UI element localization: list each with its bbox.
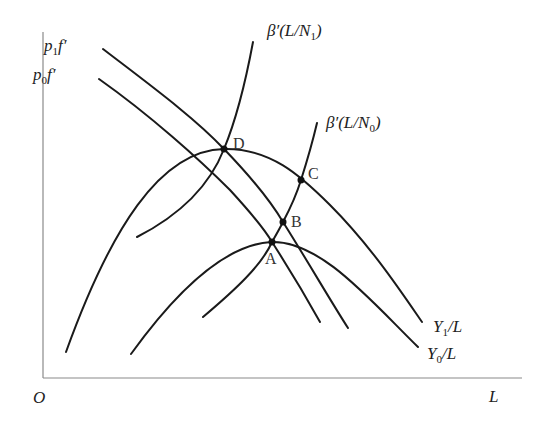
label-p1-base: p [44, 36, 53, 55]
label-beta-n0-tail: ) [375, 113, 381, 132]
point-label-d: D [233, 136, 245, 152]
label-beta-prime-n0: β′(L/N0) [326, 114, 381, 134]
label-beta-n1-head: β′(L/N [267, 21, 310, 40]
x-axis-label: L [489, 388, 498, 405]
point-d [221, 146, 228, 153]
curve-p0-f-prime [99, 79, 320, 322]
label-p1-f-prime: p1f′ [44, 37, 66, 57]
label-y0-over-l: Y0/L [427, 345, 456, 365]
label-p0-base: p [33, 65, 42, 84]
point-a [269, 239, 276, 246]
label-y0-tail: /L [442, 344, 456, 363]
label-p1-tail: f′ [58, 36, 66, 55]
origin-label: O [33, 389, 45, 406]
point-label-b: B [291, 214, 302, 230]
label-beta-n1-tail: ) [316, 21, 322, 40]
label-y1-over-l: Y1/L [433, 318, 462, 338]
point-c [298, 177, 305, 184]
point-label-a: A [265, 251, 277, 267]
economics-diagram [0, 0, 550, 430]
label-p0-tail: f′ [47, 65, 55, 84]
point-b [280, 219, 287, 226]
label-p0-f-prime: p0f′ [33, 66, 55, 86]
label-beta-prime-n1: β′(L/N1) [267, 22, 322, 42]
point-label-c: C [308, 166, 319, 182]
label-beta-n0-head: β′(L/N [326, 113, 369, 132]
label-y1-tail: /L [448, 317, 462, 336]
curve-y1-over-l [66, 149, 422, 352]
